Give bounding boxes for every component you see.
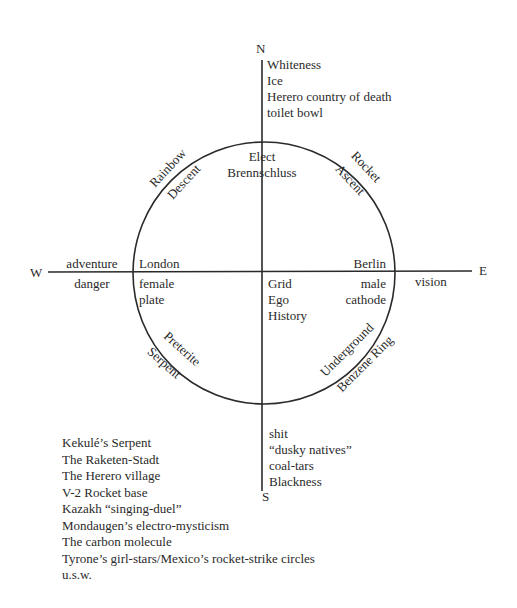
- west-above-label: adventure: [56, 256, 128, 272]
- east-inside-list: male cathode: [320, 276, 386, 308]
- north-item: Herero country of death: [267, 89, 392, 105]
- legend-item: Mondaugen’s electro-mysticism: [62, 518, 315, 535]
- north-item: Ice: [267, 73, 392, 89]
- history-label: History: [268, 308, 307, 324]
- brennschluss-label: Brennschluss: [222, 165, 302, 181]
- cathode-label: cathode: [320, 292, 386, 308]
- ego-label: Ego: [268, 292, 307, 308]
- female-label: female: [139, 276, 174, 292]
- compass-east: E: [479, 263, 487, 279]
- top-center-labels: Elect Brennschluss: [222, 149, 302, 181]
- east-below-label: vision: [415, 274, 447, 290]
- elect-label: Elect: [222, 149, 302, 165]
- berlin-label: Berlin: [320, 256, 386, 272]
- legend-item: V-2 Rocket base: [62, 485, 315, 502]
- legend-item: The Herero village: [62, 468, 315, 485]
- north-item: Whiteness: [267, 57, 392, 73]
- compass-west: W: [30, 265, 42, 281]
- center-list: Grid Ego History: [268, 276, 307, 324]
- plate-label: plate: [139, 292, 174, 308]
- legend-item: u.s.w.: [62, 567, 315, 584]
- legend-item: The Raketen-Stadt: [62, 452, 315, 469]
- mandala-diagram: N S E W Whiteness Ice Herero country of …: [0, 0, 517, 608]
- west-inside-list: female plate: [139, 276, 174, 308]
- legend-item: Kekulé’s Serpent: [62, 435, 315, 452]
- west-below-label: danger: [56, 276, 128, 292]
- legend-item: Tyrone’s girl-stars/Mexico’s rocket-stri…: [62, 551, 315, 568]
- legend-list: Kekulé’s Serpent The Raketen-Stadt The H…: [62, 435, 315, 584]
- grid-label: Grid: [268, 276, 307, 292]
- north-list: Whiteness Ice Herero country of death to…: [267, 57, 392, 121]
- north-item: toilet bowl: [267, 105, 392, 121]
- legend-item: Kazakh “singing-duel”: [62, 501, 315, 518]
- compass-north: N: [256, 41, 265, 57]
- male-label: male: [320, 276, 386, 292]
- london-label: London: [139, 256, 179, 272]
- legend-item: The carbon molecule: [62, 534, 315, 551]
